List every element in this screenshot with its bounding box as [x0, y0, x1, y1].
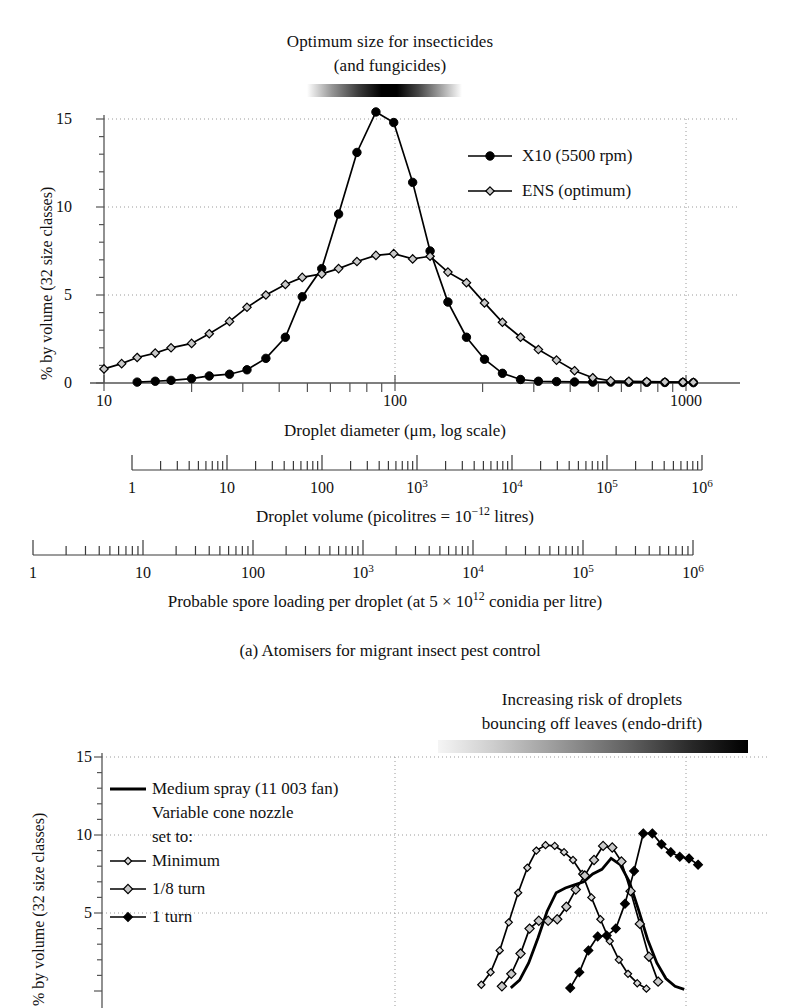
- panel-b-series: [478, 829, 703, 992]
- legend-b-item-1-label: 1/8 turn: [152, 879, 205, 899]
- legend-b-title-line2: Variable cone nozzle: [152, 803, 294, 823]
- legend-b-title-line3: set to:: [152, 827, 193, 847]
- figure-root: Optimum size for insecticides (and fungi…: [0, 0, 786, 1008]
- legend-b-title-line1: Medium spray (11 003 fan): [152, 779, 338, 799]
- panel-b-y-ticks: [94, 757, 102, 991]
- panel-b-legend-markers: [110, 789, 146, 921]
- legend-b-item-2-label: 1 turn: [152, 907, 192, 927]
- panel-b-plot: [0, 0, 786, 1008]
- legend-b-item-0-label: Minimum: [152, 851, 220, 871]
